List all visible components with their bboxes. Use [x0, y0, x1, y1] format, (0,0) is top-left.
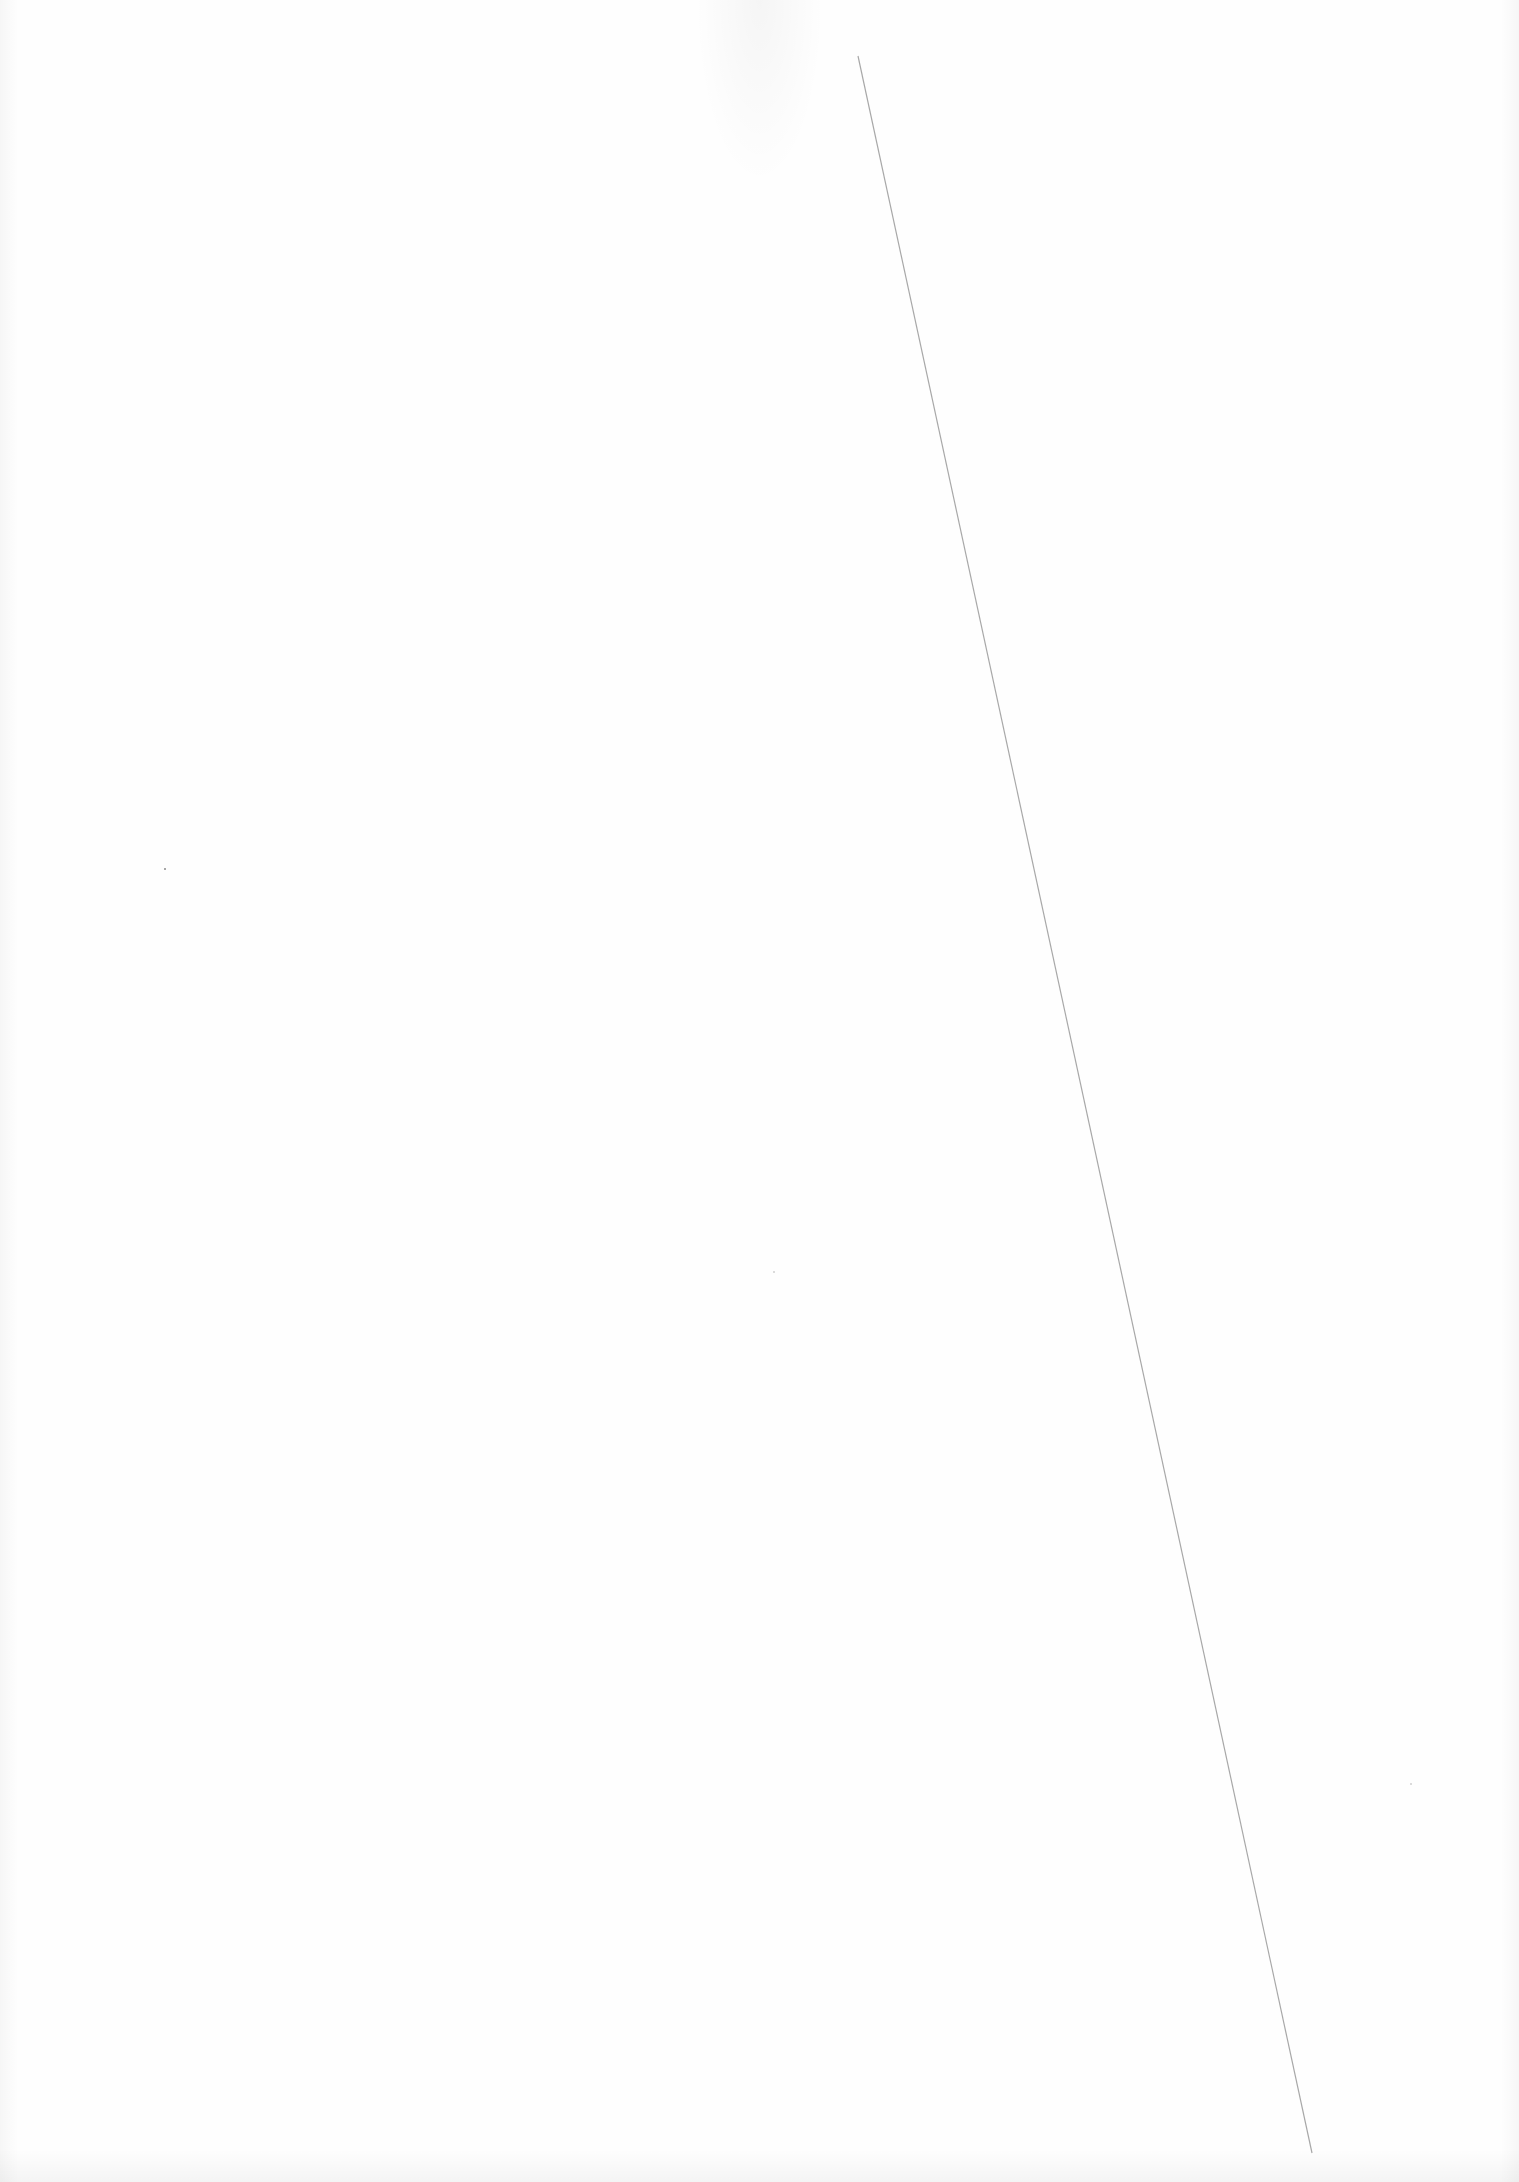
scanned-page — [0, 0, 1519, 2182]
speck — [773, 1271, 775, 1273]
speck — [164, 868, 166, 870]
speck — [1410, 1783, 1412, 1785]
diagonal-rule-line — [0, 0, 1519, 2182]
